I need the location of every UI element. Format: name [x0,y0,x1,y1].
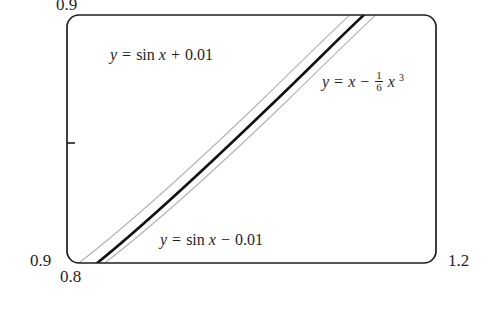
eq-cubic-y: y [322,73,329,90]
equation-sin-plus: y = sin x + 0.01 [110,47,213,63]
eq-sin-minus-y: y [160,231,167,248]
eq-sin-plus-var: x [159,46,166,63]
equation-cubic: y = x − 1 6 x 3 [322,70,404,94]
eq-sin-minus-operator: − [220,231,231,248]
calculator-viewport-figure: 0.9 0.9 0.8 1.2 y = sin x + 0.01 y = sin… [0,0,491,328]
eq-sin-plus-fn: sin [136,46,155,63]
eq-sin-minus-equals: = [171,231,182,248]
y-max-label: 0.9 [56,0,77,13]
eq-sin-minus-const: 0.01 [235,231,263,248]
eq-cubic-var2: x [388,73,395,90]
eq-sin-minus-fn: sin [186,231,205,248]
equation-sin-minus: y = sin x − 0.01 [160,232,263,248]
eq-sin-plus-equals: = [121,46,132,63]
eq-sin-minus-var: x [209,231,216,248]
eq-cubic-fraction: 1 6 [375,70,383,94]
eq-cubic-var: x [348,73,355,90]
eq-sin-plus-y: y [110,46,117,63]
eq-cubic-operator: − [359,73,370,90]
eq-cubic-equals: = [333,73,344,90]
eq-sin-plus-const: 0.01 [185,46,213,63]
y-min-label: 0.9 [30,252,51,269]
x-min-label: 0.8 [60,268,81,285]
eq-cubic-numerator: 1 [375,70,383,81]
eq-cubic-denominator: 6 [375,81,383,93]
x-max-label: 1.2 [448,252,469,269]
eq-sin-plus-operator: + [170,46,181,63]
eq-cubic-exponent: 3 [399,72,404,83]
